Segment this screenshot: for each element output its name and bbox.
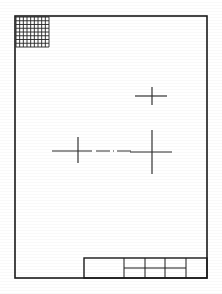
center-mark-mark-lower-left <box>52 137 92 163</box>
drawing-canvas <box>0 0 222 294</box>
corner-hatch-square <box>16 17 49 47</box>
title-block <box>84 258 207 278</box>
drawing-sheet <box>0 0 222 294</box>
drawing-frame <box>15 16 207 278</box>
frame-rectangle <box>15 16 207 278</box>
center-marks-group <box>52 87 172 174</box>
center-mark-mark-upper-right <box>135 87 167 105</box>
center-mark-mark-lower-right <box>130 130 172 174</box>
